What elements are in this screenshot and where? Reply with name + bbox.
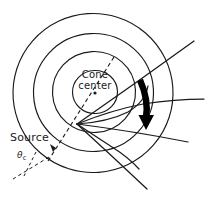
source-arrowhead <box>50 144 56 152</box>
cone-center-dot <box>93 91 96 94</box>
angle-subscript: c <box>23 154 27 162</box>
ray-right <box>77 99 204 124</box>
cone-center-label-line1: Cone <box>72 69 118 80</box>
cone-center-label: Cone center <box>72 69 118 91</box>
mach-cone-diagram: Cone center Source θc <box>0 0 207 205</box>
cone-center-label-line2: center <box>72 80 118 91</box>
cone-angle-label: θc <box>17 150 27 162</box>
source-label: Source <box>10 131 49 144</box>
diagram-canvas <box>0 0 207 205</box>
